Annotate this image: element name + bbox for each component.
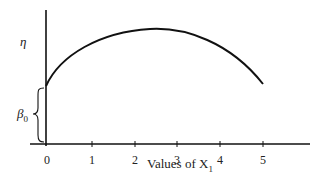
- x-tick-label: 4: [217, 153, 223, 168]
- x-axis-label: Values of X1: [147, 157, 213, 174]
- eta-curve: [46, 29, 263, 86]
- beta0-label: β0: [17, 107, 28, 124]
- eta-label: η: [20, 35, 26, 48]
- x-tick-label: 1: [89, 153, 95, 168]
- x-tick-label: 0: [44, 153, 50, 168]
- beta0-brace: [33, 88, 44, 142]
- beta0-subscript: 0: [23, 114, 28, 124]
- x-axis-label-main: Values of X: [147, 156, 208, 171]
- x-tick-label: 5: [260, 153, 266, 168]
- x-axis-label-subscript: 1: [208, 164, 213, 174]
- x-tick-label: 2: [132, 153, 138, 168]
